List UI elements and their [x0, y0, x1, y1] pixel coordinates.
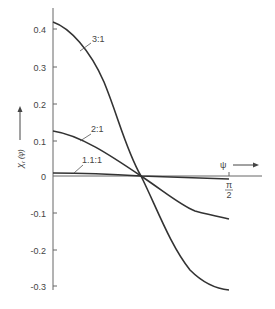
curve-3-1 [53, 22, 229, 290]
y-tick-label: 0.2 [33, 100, 46, 110]
label-1-1-1: 1.1:1 [74, 155, 102, 173]
y-tick-label: -0.2 [30, 246, 46, 256]
y-tick-label: 0.4 [33, 25, 46, 35]
svg-text:χr(ψ): χr(ψ) [15, 149, 26, 169]
svg-text:3:1: 3:1 [92, 34, 105, 44]
y-tick-label: 0 [41, 172, 46, 182]
y-tick-label: 0.3 [33, 63, 46, 73]
svg-text:π: π [226, 180, 232, 190]
label-3-1: 3:1 [80, 34, 105, 51]
y-axis-label: χr(ψ) [15, 106, 26, 169]
y-tick-label: -0.3 [30, 282, 46, 292]
y-tick-labels: 0.4 0.3 0.2 0.1 0 -0.1 -0.2 -0.3 [30, 25, 46, 292]
svg-text:1.1:1: 1.1:1 [82, 155, 102, 165]
y-ticks [53, 29, 57, 286]
svg-text:2: 2 [226, 190, 231, 200]
chart: 0.4 0.3 0.2 0.1 0 -0.1 -0.2 -0.3 χr(ψ) ψ… [0, 0, 275, 309]
label-2-1: 2:1 [80, 124, 104, 141]
svg-text:ψ: ψ [220, 160, 226, 170]
svg-text:2:1: 2:1 [91, 124, 104, 134]
y-tick-label: 0.1 [33, 137, 46, 147]
x-axis-label: ψ [220, 160, 259, 170]
y-tick-label: -0.1 [30, 209, 46, 219]
x-tick-label-pi-half: π 2 [225, 180, 233, 200]
